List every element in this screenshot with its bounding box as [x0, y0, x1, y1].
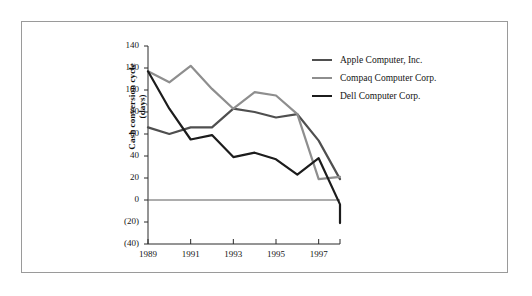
- x-tick-label: 1991: [171, 249, 211, 259]
- y-tick-label: 20: [109, 172, 139, 182]
- legend-label: Apple Computer, Inc.: [340, 55, 422, 65]
- legend-label: Dell Computer Corp.: [340, 91, 420, 101]
- chart-figure: Cash conversion cycle (days) 14012010080…: [0, 0, 532, 296]
- y-tick-label: 100: [109, 84, 139, 94]
- y-tick-label: 0: [109, 194, 139, 204]
- y-tick-label: 40: [109, 150, 139, 160]
- legend-item: Apple Computer, Inc.: [312, 52, 492, 67]
- legend-item: Compaq Computer Corp.: [312, 70, 492, 85]
- y-tick-label: 60: [109, 128, 139, 138]
- x-tick-label: 1997: [299, 249, 339, 259]
- x-tick-label: 1993: [213, 249, 253, 259]
- legend-swatch-icon: [312, 95, 332, 97]
- chart-legend: Apple Computer, Inc.Compaq Computer Corp…: [312, 52, 492, 106]
- x-tick-label: 1989: [128, 249, 168, 259]
- legend-swatch-icon: [312, 77, 332, 79]
- y-tick-label: (40): [109, 238, 139, 248]
- y-tick-label: 140: [109, 40, 139, 50]
- tick-marks: [144, 46, 340, 244]
- x-tick-label: 1995: [256, 249, 296, 259]
- legend-swatch-icon: [312, 59, 332, 61]
- y-tick-label: 80: [109, 106, 139, 116]
- y-tick-label: 120: [109, 62, 139, 72]
- y-tick-label: (20): [109, 216, 139, 226]
- legend-item: Dell Computer Corp.: [312, 88, 492, 103]
- legend-label: Compaq Computer Corp.: [340, 73, 436, 83]
